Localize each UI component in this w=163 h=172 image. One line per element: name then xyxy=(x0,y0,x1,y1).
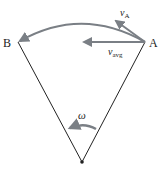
radius-line-b xyxy=(18,42,82,162)
v-a-label: vA xyxy=(120,7,130,20)
arc-path-arrow xyxy=(20,24,145,42)
omega-label: ω xyxy=(78,109,86,121)
v-avg-label: vavg xyxy=(108,46,123,59)
radius-line-a xyxy=(82,42,145,162)
diagram-canvas: B A vA vavg ω xyxy=(0,0,163,172)
point-b-label: B xyxy=(3,36,11,50)
point-a-label: A xyxy=(149,36,158,50)
omega-rotation-arrow xyxy=(70,125,96,129)
pivot-point xyxy=(80,160,84,164)
